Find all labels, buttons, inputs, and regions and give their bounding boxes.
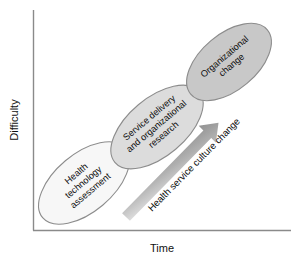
figure-canvas: Difficulty Time Health service culture c… [0, 0, 296, 259]
x-axis-label: Time [150, 242, 174, 254]
y-axis-label: Difficulty [8, 99, 20, 141]
concept-diagram-svg: Difficulty Time Health service culture c… [0, 0, 296, 259]
